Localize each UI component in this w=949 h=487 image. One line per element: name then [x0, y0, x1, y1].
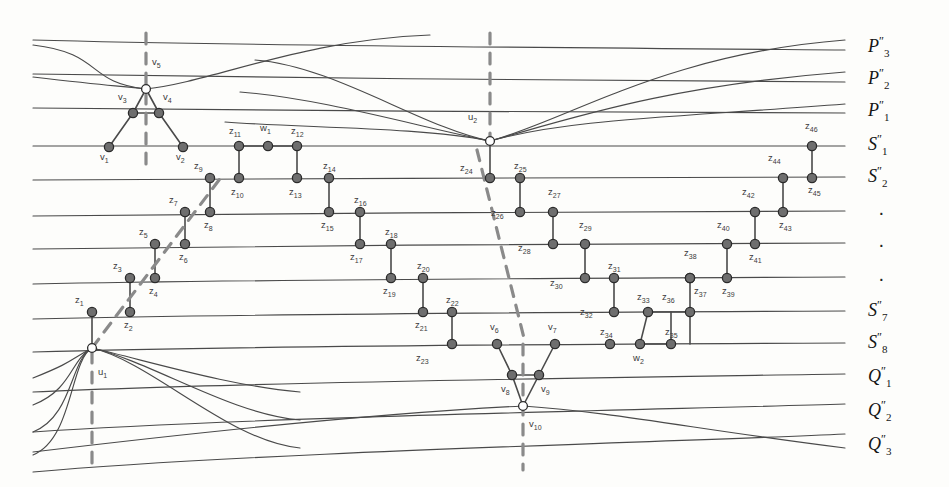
vertex-z16[interactable] — [355, 207, 364, 216]
vertex-z46[interactable] — [807, 141, 816, 150]
label-z5: z5 — [139, 226, 148, 239]
label-z8: z8 — [204, 219, 213, 232]
vertex-z23[interactable] — [447, 339, 456, 348]
vertex-v9[interactable] — [534, 370, 543, 379]
vertex-z2[interactable] — [125, 307, 134, 316]
label-w2: w2 — [633, 352, 644, 365]
label-z27: z27 — [548, 186, 561, 199]
vertex-v7[interactable] — [550, 339, 559, 348]
v10-curve-left-1 — [33, 406, 523, 452]
label-z35: z35 — [665, 326, 678, 339]
vertex-z35[interactable] — [666, 339, 675, 348]
label-z30: z30 — [550, 277, 563, 290]
vertex-z24[interactable] — [485, 173, 494, 182]
vertex-z27[interactable] — [548, 207, 557, 216]
vertex-v8[interactable] — [507, 370, 516, 379]
label-v10: v10 — [529, 418, 542, 431]
label-z17: z17 — [350, 251, 363, 264]
vertex-z19[interactable] — [386, 273, 395, 282]
vertex-z34[interactable] — [605, 339, 614, 348]
label-v5: v5 — [152, 56, 161, 69]
vertex-z42[interactable] — [750, 207, 759, 216]
label-z38: z38 — [684, 247, 697, 260]
vertex-u2[interactable] — [486, 137, 495, 146]
right-label-Q3: Q″3 — [868, 432, 892, 457]
vertex-z36[interactable] — [685, 307, 694, 316]
vertex-z10[interactable] — [234, 173, 243, 182]
vertex-z40[interactable] — [722, 239, 731, 248]
label-v6: v6 — [490, 321, 499, 334]
vertex-z31[interactable] — [609, 273, 618, 282]
label-z20: z20 — [417, 260, 430, 273]
vertex-z15[interactable] — [324, 207, 333, 216]
label-z44: z44 — [768, 152, 781, 165]
vertex-z21[interactable] — [418, 307, 427, 316]
vertex-z41[interactable] — [750, 239, 759, 248]
vertex-z1[interactable] — [87, 307, 96, 316]
level-curve-10 — [33, 343, 845, 352]
label-z13: z13 — [289, 186, 302, 199]
vertex-w2[interactable] — [635, 339, 644, 348]
dashed-left-diagonal — [92, 176, 222, 348]
vertex-v10[interactable] — [519, 402, 528, 411]
vertex-v4[interactable] — [154, 108, 163, 117]
vertex-z22[interactable] — [447, 307, 456, 316]
vertex-u1[interactable] — [88, 344, 97, 353]
vertex-z20[interactable] — [418, 273, 427, 282]
vertex-v6[interactable] — [492, 339, 501, 348]
vertex-v3[interactable] — [128, 108, 137, 117]
vertex-z32[interactable] — [609, 307, 618, 316]
right-label-P1: P″1 — [868, 98, 890, 123]
label-z7: z7 — [169, 194, 178, 207]
vertex-z43[interactable] — [778, 207, 787, 216]
vertex-z17[interactable] — [355, 239, 364, 248]
label-z32: z32 — [580, 306, 593, 319]
vertex-z6[interactable] — [180, 239, 189, 248]
label-z18: z18 — [385, 226, 398, 239]
vertex-z33[interactable] — [643, 307, 652, 316]
vertex-z39[interactable] — [722, 273, 731, 282]
vertex-z8[interactable] — [205, 207, 214, 216]
vertex-z13[interactable] — [292, 173, 301, 182]
vertex-z44[interactable] — [778, 173, 787, 182]
edge-v1-v3 — [109, 113, 133, 147]
label-v2: v2 — [176, 151, 185, 164]
level-curve-1 — [33, 40, 845, 50]
label-z14: z14 — [323, 160, 336, 173]
vertex-z38[interactable] — [685, 273, 694, 282]
label-z3: z3 — [113, 260, 122, 273]
label-v3: v3 — [118, 91, 127, 104]
vertex-v5[interactable] — [142, 85, 151, 94]
v5-curve-left-1 — [33, 45, 146, 89]
vertex-z12[interactable] — [292, 141, 301, 150]
vertex-z4[interactable] — [150, 273, 159, 282]
label-z2: z2 — [124, 319, 133, 332]
vertex-z11[interactable] — [234, 141, 243, 150]
label-z29: z29 — [579, 219, 592, 232]
label-z23: z23 — [416, 352, 429, 365]
vertex-z26[interactable] — [515, 207, 524, 216]
label-v9: v9 — [541, 383, 550, 396]
label-v8: v8 — [501, 383, 510, 396]
vertex-z3[interactable] — [125, 273, 134, 282]
vertex-z25[interactable] — [515, 173, 524, 182]
vertex-z29[interactable] — [580, 239, 589, 248]
label-z45: z45 — [808, 184, 821, 197]
label-z43: z43 — [779, 219, 792, 232]
vertex-z18[interactable] — [386, 239, 395, 248]
vertex-z45[interactable] — [807, 173, 816, 182]
vertex-z14[interactable] — [324, 173, 333, 182]
vertex-z9[interactable] — [205, 173, 214, 182]
vertex-w1[interactable] — [263, 141, 272, 150]
label-w1: w1 — [260, 122, 271, 135]
u1-fan-right-1 — [92, 348, 300, 392]
vertex-z7[interactable] — [180, 207, 189, 216]
vertex-z28[interactable] — [548, 239, 557, 248]
label-z40: z40 — [717, 219, 730, 232]
right-label-S1: S″1 — [868, 132, 888, 157]
label-v1: v1 — [100, 151, 109, 164]
vertex-z5[interactable] — [150, 239, 159, 248]
label-z42: z42 — [742, 186, 755, 199]
label-z10: z10 — [231, 186, 244, 199]
vertex-z30[interactable] — [580, 273, 589, 282]
